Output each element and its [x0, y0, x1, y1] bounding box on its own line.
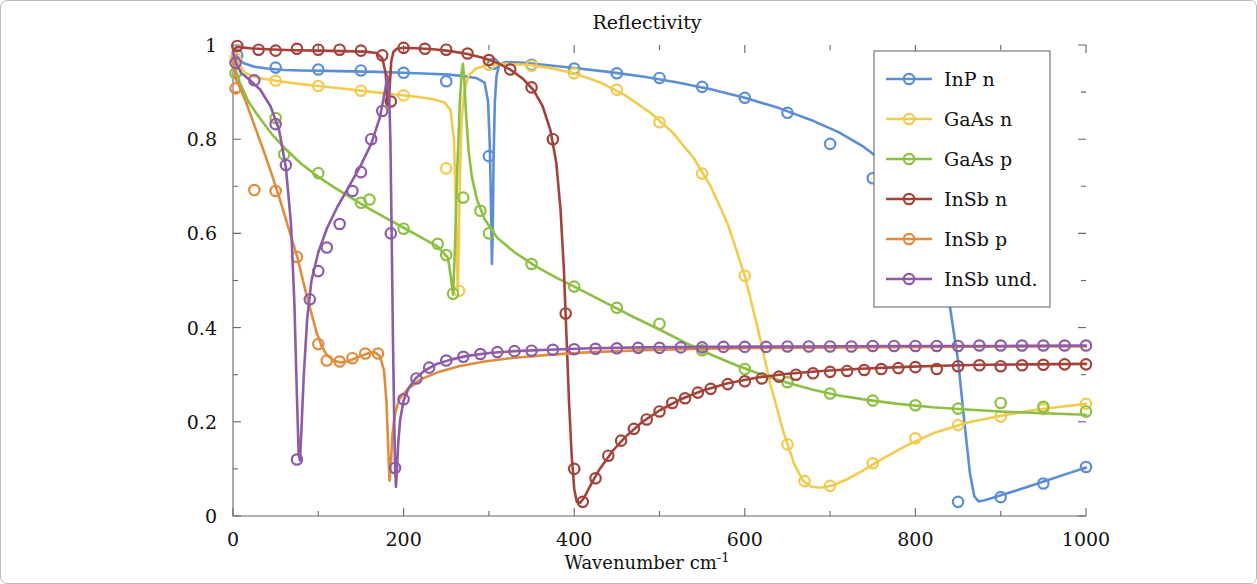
figure-container: 0200400600800100000.20.40.60.81 InP nGaA… [0, 0, 1257, 584]
data-point-marker [441, 76, 451, 86]
data-point-marker [322, 242, 332, 252]
y-tick-label: 0.2 [187, 411, 217, 433]
legend-label: InP n [944, 68, 995, 90]
chart-title: Reflectivity [593, 11, 702, 33]
data-point-marker [791, 370, 801, 380]
svg-text:Wavenumber cm-1: Wavenumber cm-1 [564, 550, 729, 573]
x-tick-label: 200 [385, 528, 421, 550]
legend-label: InSb p [944, 228, 1007, 250]
y-tick-label: 0.8 [187, 128, 217, 150]
data-point-marker [996, 361, 1006, 371]
data-point-marker [292, 44, 302, 54]
reflectivity-chart: 0200400600800100000.20.40.60.81 InP nGaA… [1, 1, 1257, 584]
data-point-marker [953, 497, 963, 507]
y-tick-label: 0.4 [187, 317, 217, 339]
data-point-marker [322, 355, 332, 365]
x-axis-label: Wavenumber cm-1 [564, 550, 729, 573]
x-tick-label: 400 [556, 528, 592, 550]
x-tick-label: 1000 [1062, 528, 1110, 550]
data-point-marker [270, 62, 280, 72]
legend-label: InSb n [944, 188, 1007, 210]
x-axis-label-exponent: -1 [717, 550, 730, 565]
data-point-marker [249, 185, 259, 195]
data-point-marker [654, 319, 664, 329]
data-point-marker [996, 398, 1006, 408]
x-tick-label: 800 [897, 528, 933, 550]
data-point-marker [825, 139, 835, 149]
legend-label: GaAs p [944, 148, 1012, 170]
data-point-marker [808, 368, 818, 378]
legend-label: InSb und. [944, 268, 1038, 290]
y-tick-label: 0.6 [187, 222, 217, 244]
data-point-marker [347, 186, 357, 196]
y-tick-label: 0 [205, 505, 217, 527]
x-tick-label: 0 [227, 528, 239, 550]
legend-layer[interactable]: InP nGaAs nGaAs pInSb nInSb pInSb und. [874, 51, 1050, 307]
x-tick-label: 600 [727, 528, 763, 550]
legend-label: GaAs n [944, 108, 1012, 130]
x-axis-label-text: Wavenumber cm [564, 552, 716, 573]
data-point-marker [441, 163, 451, 173]
y-tick-label: 1 [205, 34, 217, 56]
data-point-marker [334, 219, 344, 229]
